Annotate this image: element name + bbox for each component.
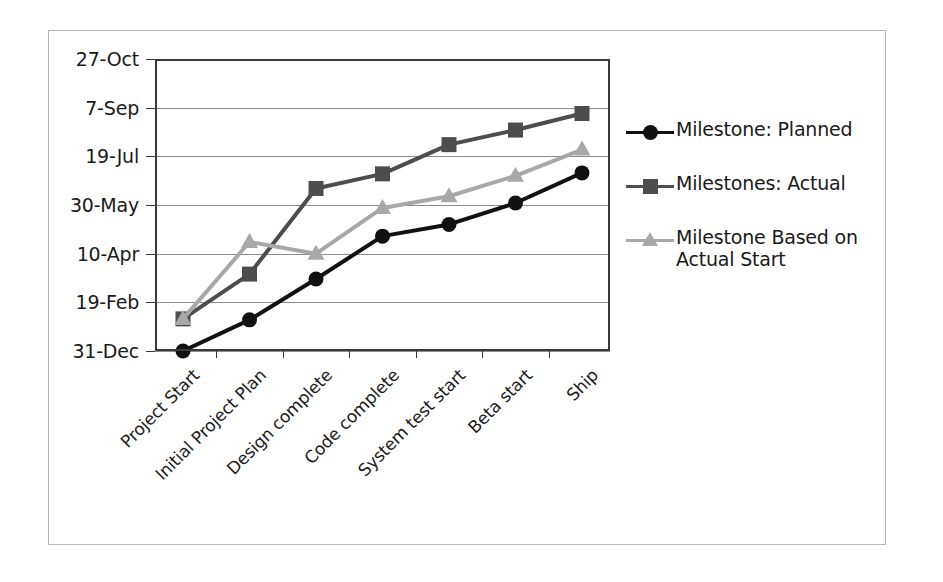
circle-marker bbox=[309, 271, 324, 286]
plot-area bbox=[155, 59, 610, 351]
triangle-marker bbox=[642, 232, 658, 246]
square-marker bbox=[575, 106, 590, 121]
legend-item[interactable]: Milestone Based on Actual Start bbox=[626, 226, 896, 271]
triangle-marker bbox=[574, 141, 591, 156]
square-marker bbox=[643, 179, 658, 194]
y-axis-tick-label: 7-Sep bbox=[0, 97, 139, 119]
circle-marker bbox=[375, 229, 390, 244]
milestone-trend-chart: 27-Oct7-Sep19-Jul30-May10-Apr19-Feb31-De… bbox=[0, 0, 943, 582]
circle-marker bbox=[242, 312, 257, 327]
y-axis-tick-mark bbox=[146, 205, 155, 206]
y-axis-tick-label: 10-Apr bbox=[0, 243, 139, 265]
y-axis-tick-mark bbox=[146, 302, 155, 303]
gridline bbox=[155, 351, 610, 352]
series-circle bbox=[176, 165, 590, 358]
y-axis-tick-label: 19-Jul bbox=[0, 145, 139, 167]
legend-item-label: Milestone: Planned bbox=[674, 118, 852, 140]
y-axis-tick-mark bbox=[146, 156, 155, 157]
legend-key bbox=[626, 227, 674, 253]
series-square bbox=[176, 106, 590, 326]
circle-marker bbox=[643, 125, 658, 140]
series-layer bbox=[155, 59, 610, 351]
x-axis-tick-mark bbox=[216, 351, 217, 358]
circle-marker bbox=[575, 165, 590, 180]
y-axis-tick-label: 30-May bbox=[0, 194, 139, 216]
legend-key bbox=[626, 173, 674, 199]
y-axis-tick-mark bbox=[146, 108, 155, 109]
chart-legend: Milestone: PlannedMilestones: ActualMile… bbox=[626, 118, 896, 298]
square-marker bbox=[442, 137, 457, 152]
square-marker bbox=[242, 267, 257, 282]
circle-marker bbox=[508, 196, 523, 211]
series-line bbox=[183, 114, 582, 319]
legend-key bbox=[626, 119, 674, 145]
x-axis-tick-mark bbox=[416, 351, 417, 358]
y-axis-tick-label: 19-Feb bbox=[0, 291, 139, 313]
legend-item[interactable]: Milestone: Planned bbox=[626, 118, 896, 145]
y-axis-tick-label: 31-Dec bbox=[0, 340, 139, 362]
legend-item-label: Milestones: Actual bbox=[674, 172, 846, 194]
x-axis-tick-mark bbox=[349, 351, 350, 358]
legend-item-label: Milestone Based on Actual Start bbox=[674, 226, 866, 271]
x-axis-tick-mark bbox=[283, 351, 284, 358]
legend-item[interactable]: Milestones: Actual bbox=[626, 172, 896, 199]
triangle-marker bbox=[241, 233, 258, 248]
x-axis-tick-mark bbox=[549, 351, 550, 358]
y-axis-tick-mark bbox=[146, 254, 155, 255]
x-axis-tick-mark bbox=[482, 351, 483, 358]
square-marker bbox=[309, 181, 324, 196]
y-axis-tick-mark bbox=[146, 351, 155, 352]
circle-marker bbox=[442, 217, 457, 232]
y-axis-tick-label: 27-Oct bbox=[0, 48, 139, 70]
circle-marker bbox=[176, 344, 191, 359]
square-marker bbox=[508, 123, 523, 138]
square-marker bbox=[375, 166, 390, 181]
y-axis-tick-mark bbox=[146, 59, 155, 60]
